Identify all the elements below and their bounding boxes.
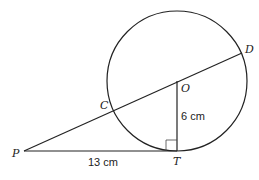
- geometry-diagram: P C O D T 6 cm 13 cm: [0, 0, 259, 180]
- label-t: T: [173, 155, 182, 168]
- measurement-pt: 13 cm: [88, 156, 118, 168]
- label-d: D: [244, 43, 254, 56]
- label-p: P: [11, 147, 20, 160]
- measurement-ot: 6 cm: [181, 110, 205, 122]
- label-c: C: [100, 99, 109, 112]
- secant-line-pd: [24, 53, 242, 151]
- right-angle-marker: [166, 140, 177, 151]
- label-o: O: [181, 82, 190, 95]
